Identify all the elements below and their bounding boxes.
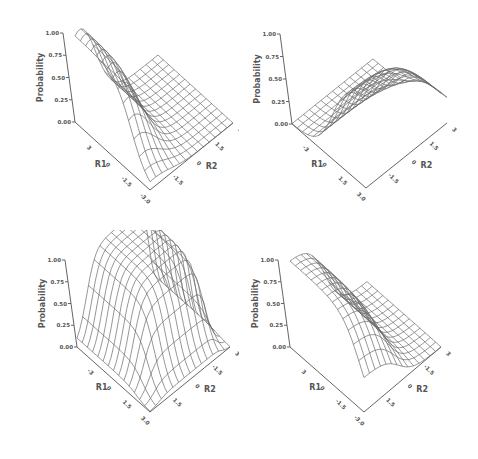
y-tick-label: -1.5	[423, 363, 436, 376]
y-tick-label: -1.5	[172, 173, 185, 186]
chart-gaussian-ridge: 0.000.250.500.751.00Probability30-1.5-3.…	[0, 0, 239, 229]
y-tick-label: 0	[406, 383, 413, 390]
z-tick-label: 0.25	[54, 97, 68, 103]
z-axis-title: Probability	[36, 52, 45, 102]
z-tick-label: 1.00	[45, 30, 59, 36]
z-tick-label: 0.25	[56, 322, 70, 328]
y-tick-label: 1.5	[385, 397, 396, 408]
surface-gridline	[128, 230, 201, 364]
x-tick-label: -3.0	[353, 414, 366, 427]
z-tick-label: 0.75	[263, 279, 277, 285]
z-tick-label: 0.25	[269, 322, 283, 328]
surface-gridline	[122, 81, 197, 151]
surface-gridline	[111, 233, 184, 378]
y-tick-label: 0	[194, 383, 201, 390]
surface-gridline	[152, 60, 227, 128]
x-tick-label: -1.5	[335, 398, 348, 411]
surface-plot: 0.000.250.500.751.00Probability30-1.5-3.…	[240, 230, 478, 459]
surface-gridline	[129, 104, 212, 134]
y-tick-label: 3	[445, 350, 452, 357]
z-axis-title: Probability	[251, 278, 260, 328]
x-axis-title: R1	[311, 160, 323, 169]
chart-sigmoid-fall: 0.000.250.500.751.00Probability30-1.5-3.…	[240, 230, 478, 459]
z-tick-label: 1.00	[262, 31, 276, 37]
x-axis-title: R1	[96, 383, 108, 392]
surface-gridline	[158, 55, 233, 123]
x-tick-label: 1.5	[122, 399, 133, 410]
y-tick-label: 3	[237, 126, 239, 133]
x-tick-label: 3	[300, 368, 307, 375]
surface-gridline	[146, 65, 221, 133]
z-axis-title: Probability	[38, 278, 47, 328]
y-tick-label: 0	[410, 159, 417, 166]
surface-plot: 0.000.250.500.751.00Probability-301.53.0…	[240, 0, 478, 229]
surface-gridline	[140, 69, 215, 137]
y-tick-label: -1.5	[211, 363, 224, 376]
x-tick-label: -3	[86, 368, 95, 377]
z-tick-label: 0.50	[53, 301, 67, 307]
surface-gridline	[367, 282, 441, 347]
y-tick-label: 1.5	[214, 141, 225, 152]
y-tick-label: 1.5	[172, 397, 183, 408]
z-tick-label: 0.75	[265, 54, 279, 60]
y-axis-title: R2	[416, 385, 428, 394]
y-tick-label: 3	[451, 126, 458, 133]
x-tick-label: 3	[86, 144, 93, 151]
z-axis-title: Probability	[253, 54, 262, 104]
surface-plot: 0.000.250.500.751.00Probability30-1.5-3.…	[0, 0, 239, 229]
z-tick-label: 0.00	[59, 344, 73, 350]
x-tick-label: -1.5	[120, 175, 133, 188]
z-tick-label: 0.50	[268, 76, 282, 82]
z-tick-label: 1.00	[47, 257, 61, 263]
surface-gridline	[87, 230, 167, 347]
chart-sigmoid-rise: 0.000.250.500.751.00Probability-301.53.0…	[240, 0, 478, 229]
x-tick-label: 3.0	[356, 191, 367, 202]
surface-gridline	[82, 230, 162, 343]
z-tick-label: 0.50	[51, 75, 65, 81]
z-tick-label: 0.00	[57, 119, 71, 125]
z-tick-label: 1.00	[260, 257, 274, 263]
surface-gridline	[290, 254, 367, 295]
z-tick-label: 0.75	[48, 52, 62, 58]
z-tick-label: 0.75	[50, 279, 64, 285]
x-tick-label: 1.5	[337, 175, 348, 186]
surface-gridline	[93, 230, 173, 352]
y-tick-label: -1.5	[387, 172, 400, 185]
x-tick-label: -3.0	[139, 192, 152, 205]
x-axis-title: R1	[309, 383, 321, 392]
z-tick-label: 0.25	[271, 99, 285, 105]
x-tick-label: -3	[302, 144, 311, 153]
surface-gridline	[329, 81, 410, 122]
surface-gridline	[81, 29, 156, 177]
x-tick-label: 3.0	[140, 415, 151, 426]
y-axis-title: R2	[204, 385, 216, 394]
surface-gridline	[308, 72, 389, 135]
surface-gridline	[146, 230, 219, 351]
surface-plot: 0.000.250.500.751.00Probability-301.53.0…	[0, 230, 239, 459]
surface-gridline	[334, 290, 408, 367]
y-axis-title: R2	[421, 161, 433, 170]
z-tick-label: 0.00	[274, 121, 288, 127]
y-tick-label: 0	[195, 160, 202, 167]
y-tick-label: 3	[234, 350, 239, 357]
chart-plateau: 0.000.250.500.751.00Probability-301.53.0…	[0, 230, 239, 459]
y-tick-label: 1.5	[429, 140, 440, 151]
z-tick-label: 0.50	[266, 301, 280, 307]
z-tick-label: 0.00	[272, 344, 286, 350]
surface-gridline	[145, 339, 225, 405]
x-axis-title: R1	[95, 160, 107, 169]
y-axis-title: R2	[206, 162, 218, 171]
